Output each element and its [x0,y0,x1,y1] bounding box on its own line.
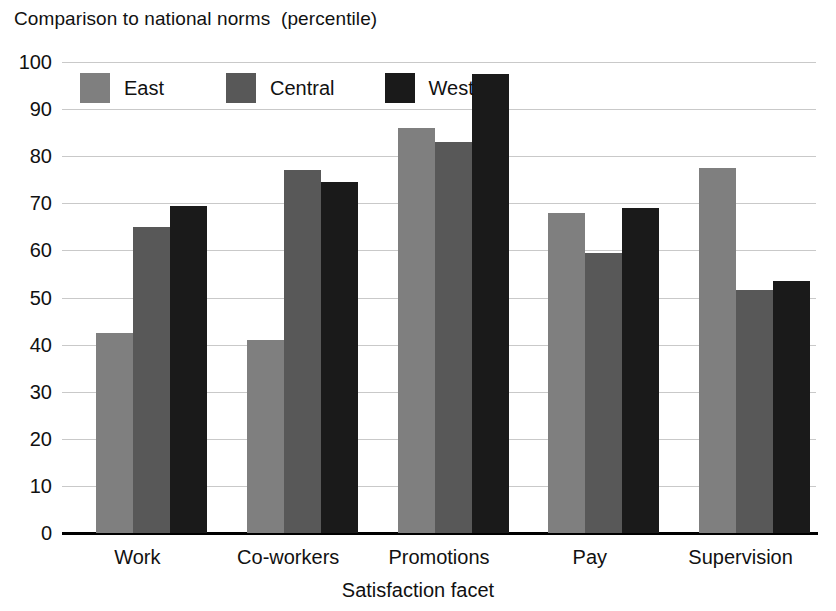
bar [585,253,622,533]
legend-label: West [429,78,474,98]
legend-item-east[interactable]: East [80,73,164,103]
legend-swatch-icon [80,73,110,103]
y-axis-tick-label: 30 [6,382,52,402]
y-axis-tick-label: 20 [6,429,52,449]
bar [247,340,284,533]
bar [773,281,810,533]
x-axis-title: Satisfaction facet [0,578,836,602]
bar [435,142,472,533]
chart-title: Comparison to national norms (percentile… [14,8,377,30]
y-axis-tick-label: 80 [6,146,52,166]
bar-group [699,62,810,533]
bar-group [96,62,207,533]
legend-label: East [124,78,164,98]
bar [699,168,736,533]
x-axis-category-label: Supervision [665,545,816,569]
y-axis-tick-label: 10 [6,476,52,496]
x-axis-category-label: Promotions [364,545,515,569]
bar-group [548,62,659,533]
chart-legend: EastCentralWest [80,68,474,108]
bar [622,208,659,533]
y-axis-tick-labels: 0102030405060708090100 [0,62,52,533]
bar [736,290,773,533]
y-axis-tick-label: 50 [6,288,52,308]
bar [96,333,133,533]
legend-swatch-icon [385,73,415,103]
bar [398,128,435,533]
legend-item-central[interactable]: Central [226,73,334,103]
bars-layer [62,62,816,533]
x-axis-category-labels: WorkCo-workersPromotionsPaySupervision [62,545,816,573]
y-axis-tick-label: 60 [6,240,52,260]
y-axis-tick-label: 70 [6,193,52,213]
x-axis-category-label: Pay [514,545,665,569]
bar-group [398,62,509,533]
bar [548,213,585,533]
bar [170,206,207,533]
legend-swatch-icon [226,73,256,103]
bar [321,182,358,533]
bar [284,170,321,533]
y-axis-tick-label: 100 [6,52,52,72]
legend-label: Central [270,78,334,98]
bar-chart-figure: Comparison to national norms (percentile… [0,0,836,611]
bar [133,227,170,533]
y-axis-tick-label: 40 [6,335,52,355]
y-axis-tick-label: 90 [6,99,52,119]
y-axis-tick-label: 0 [6,523,52,543]
x-axis-category-label: Co-workers [213,545,364,569]
bar [472,74,509,533]
bar-group [247,62,358,533]
legend-item-west[interactable]: West [385,73,474,103]
x-axis-category-label: Work [62,545,213,569]
